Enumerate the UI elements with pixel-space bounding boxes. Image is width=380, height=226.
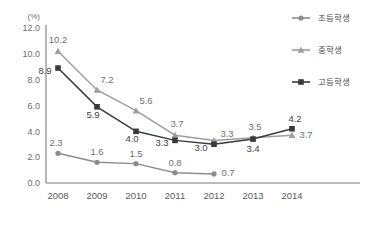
data-point-label: 1.5 (129, 148, 142, 159)
data-point-label: 10.2 (49, 34, 68, 45)
x-tick-label: 2011 (165, 190, 185, 201)
x-tick-label: 2012 (203, 190, 224, 201)
marker-square (250, 136, 256, 142)
y-tick-label: 4.0 (27, 127, 40, 137)
data-point-label: 3.3 (220, 128, 233, 139)
marker-circle (133, 161, 138, 166)
marker-square (55, 65, 61, 71)
chart-canvas: 0.02.04.06.08.010.012.0 (%) 200820092010… (0, 0, 380, 226)
marker-square (298, 79, 304, 85)
data-point-label: 4.0 (125, 133, 138, 144)
data-point-labels-group: 2.31.61.50.80.710.27.25.63.73.33.53.78.9… (38, 34, 312, 178)
data-point-label: 2.3 (49, 137, 62, 148)
legend-item-label[interactable]: 초등학생 (318, 13, 350, 23)
y-tick-label: 12.0 (22, 23, 40, 33)
y-tick-label: 6.0 (27, 101, 40, 111)
marker-triangle (133, 107, 140, 113)
x-tick-label: 2010 (125, 190, 146, 201)
x-tick-label: 2013 (242, 190, 263, 201)
x-tick-label: 2008 (47, 190, 68, 201)
chart-legend: 초등학생중학생고등학생 (292, 13, 350, 87)
y-tick-label: 2.0 (27, 152, 40, 162)
marker-square (289, 126, 295, 132)
marker-circle (172, 170, 177, 175)
data-point-label: 5.6 (139, 95, 152, 106)
data-point-label: 4.2 (288, 113, 301, 124)
legend-item-label[interactable]: 고등학생 (318, 77, 350, 87)
data-point-label: 3.7 (170, 118, 183, 129)
data-point-label: 3.4 (246, 143, 259, 154)
marker-circle (211, 171, 216, 176)
data-point-label: 0.7 (221, 167, 234, 178)
data-point-label: 3.7 (299, 129, 312, 140)
y-axis-unit-label: (%) (28, 12, 41, 21)
marker-circle (55, 151, 60, 156)
x-tick-label: 2014 (281, 190, 302, 201)
y-axis-unit: (%) (28, 12, 41, 21)
data-point-label: 3.3 (155, 137, 168, 148)
y-tick-label: 10.0 (22, 49, 40, 59)
marker-square (211, 141, 217, 147)
marker-circle (298, 15, 303, 20)
data-point-label: 1.6 (90, 146, 103, 157)
data-point-label: 3.5 (248, 121, 261, 132)
data-point-label: 0.8 (168, 157, 181, 168)
y-tick-label: 0.0 (27, 178, 40, 188)
y-axis-tick-labels: 0.02.04.06.08.010.012.0 (22, 23, 40, 188)
x-axis-tick-labels: 2008200920102011201220132014 (47, 190, 302, 201)
x-tick-label: 2009 (86, 190, 107, 201)
data-point-label: 3.0 (194, 142, 207, 153)
data-point-label: 8.9 (38, 65, 51, 76)
marker-triangle (55, 48, 62, 54)
marker-circle (94, 160, 99, 165)
data-point-label: 7.2 (100, 74, 113, 85)
chart-axes (46, 25, 360, 183)
marker-square (172, 138, 178, 144)
y-tick-label: 8.0 (27, 75, 40, 85)
data-point-label: 5.9 (86, 109, 99, 120)
legend-item-label[interactable]: 중학생 (318, 45, 342, 55)
line-chart: 0.02.04.06.08.010.012.0 (%) 200820092010… (0, 0, 380, 226)
